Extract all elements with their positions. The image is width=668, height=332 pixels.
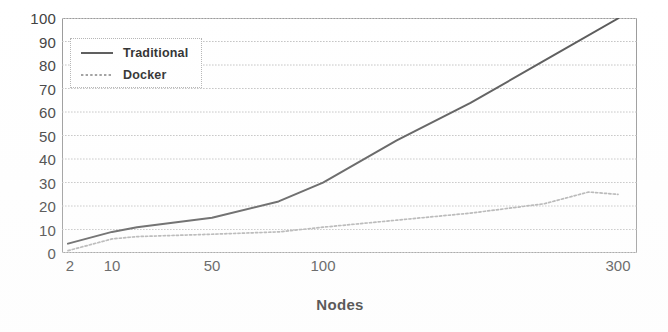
legend-item-traditional: Traditional	[71, 42, 203, 64]
x-tick-label-2: 2	[66, 258, 74, 273]
x-tick-label-100: 100	[310, 258, 335, 273]
chart-legend: Traditional Docker	[70, 38, 202, 88]
y-tick-label-80: 80	[0, 58, 56, 73]
x-axis-title-text: Nodes	[316, 296, 363, 313]
legend-label-docker: Docker	[123, 68, 167, 82]
y-tick-label-10: 10	[0, 222, 56, 237]
y-tick-label-70: 70	[0, 81, 56, 96]
dotted-line-swatch-icon	[80, 70, 114, 80]
x-axis-tick-labels: 2 10 50 100 300	[0, 258, 668, 278]
legend-item-docker: Docker	[71, 64, 203, 86]
y-tick-label-50: 50	[0, 128, 56, 143]
series-line-docker	[68, 192, 618, 251]
y-tick-label-60: 60	[0, 105, 56, 120]
y-tick-label-40: 40	[0, 152, 56, 167]
solid-line-swatch-icon	[80, 48, 114, 58]
y-tick-label-20: 20	[0, 199, 56, 214]
y-tick-label-100: 100	[0, 11, 56, 26]
x-tick-label-50: 50	[204, 258, 221, 273]
y-tick-label-30: 30	[0, 175, 56, 190]
line-chart-figure: 0 10 20 30 40 50 60 70 80 90 100	[0, 0, 668, 332]
x-axis-title: Nodes	[0, 296, 668, 313]
legend-label-traditional: Traditional	[123, 46, 188, 60]
x-tick-label-300: 300	[605, 258, 630, 273]
x-tick-label-10: 10	[104, 258, 121, 273]
y-tick-label-90: 90	[0, 34, 56, 49]
y-axis-tick-labels: 0 10 20 30 40 50 60 70 80 90 100	[0, 18, 56, 253]
